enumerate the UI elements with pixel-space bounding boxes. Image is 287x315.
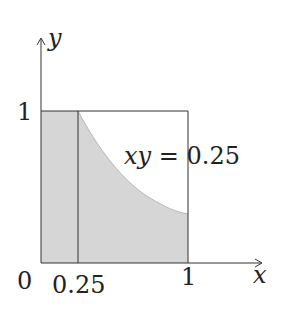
curve-equation-label: xy = 0.25 (124, 144, 240, 168)
shaded-region (41, 111, 188, 263)
x-tick-1: 1 (181, 265, 196, 289)
x-axis-label: x (253, 263, 267, 287)
x-tick-0.25: 0.25 (52, 273, 105, 297)
y-tick-1: 1 (17, 100, 32, 124)
equation-rhs: 0.25 (186, 142, 239, 170)
origin-label: 0 (17, 269, 32, 293)
equation-eq: = (159, 142, 179, 170)
equation-lhs: xy (124, 142, 151, 170)
y-axis-label: y (48, 26, 62, 50)
